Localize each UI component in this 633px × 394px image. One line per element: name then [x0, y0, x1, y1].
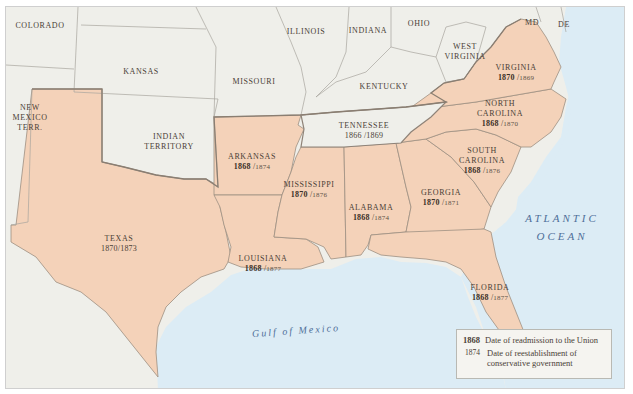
map-legend: 1868 Date of readmission to the Union 18…	[456, 329, 612, 379]
label-kentucky: KENTUCKY	[360, 82, 409, 92]
legend-light-year: 1874	[463, 348, 487, 358]
label-west-virginia: WESTVIRGINIA	[444, 42, 485, 62]
label-colorado: COLORADO	[15, 21, 64, 31]
label-alabama: ALABAMA 1868 /1874	[349, 203, 394, 223]
label-tennessee: TENNESSEE 1866 /1869	[339, 121, 389, 141]
legend-bold-desc: Date of readmission to the Union	[485, 335, 598, 345]
label-south-carolina: SOUTH CAROLINA 1868 /1876	[459, 146, 505, 176]
label-new-mexico-terr: NEWMEXICOTERR.	[12, 103, 47, 133]
legend-bold-year: 1868	[463, 335, 485, 345]
label-illinois: ILLINOIS	[287, 27, 326, 37]
legend-light-desc: Date of reestablishment of conservative …	[487, 348, 577, 368]
label-indian-territory: INDIANTERRITORY	[144, 132, 194, 152]
label-virginia: VIRGINIA 1870 /1869	[495, 63, 536, 83]
label-mississippi: MISSISSIPPI 1870 /1876	[283, 180, 334, 200]
label-ohio: OHIO	[408, 19, 430, 29]
label-missouri: MISSOURI	[232, 77, 275, 87]
label-indiana: INDIANA	[349, 26, 387, 36]
label-de: DE	[558, 20, 570, 30]
label-north-carolina: NORTH CAROLINA 1868 /1870	[477, 99, 523, 129]
label-md: MD	[525, 18, 539, 28]
label-kansas: KANSAS	[123, 67, 159, 77]
map-frame: COLORADO KANSAS MISSOURI ILLINOIS INDIAN…	[5, 6, 625, 389]
label-louisiana: LOUISIANA 1868 /1877	[239, 254, 288, 274]
legend-row-conservative: 1874 Date of reestablishment of conserva…	[463, 348, 605, 368]
label-texas: TEXAS 1870/1873	[101, 234, 137, 254]
label-arkansas: ARKANSAS 1868 /1874	[228, 152, 276, 172]
legend-row-readmission: 1868 Date of readmission to the Union	[463, 335, 605, 345]
label-atlantic-ocean: ATLANTIC OCEAN	[525, 209, 599, 245]
label-florida: FLORIDA 1868 /1877	[471, 283, 510, 303]
label-georgia: GEORGIA 1870 /1871	[421, 188, 461, 208]
